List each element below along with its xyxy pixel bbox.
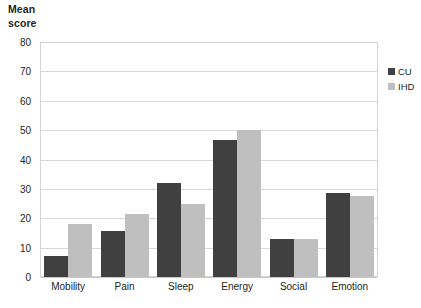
- bar-cu-social[interactable]: [270, 239, 294, 277]
- x-tick-label-social: Social: [280, 281, 307, 292]
- x-axis: MobilityPainSleepEnergySocialEmotion: [40, 281, 378, 303]
- chart-legend: CUIHD: [388, 64, 421, 94]
- x-tick-label-mobility: Mobility: [51, 281, 85, 292]
- y-tick-label-0: 0: [25, 272, 31, 283]
- bar-cu-pain[interactable]: [101, 231, 125, 277]
- bar-ihd-social[interactable]: [294, 239, 318, 277]
- bar-group-emotion: [326, 42, 374, 277]
- bar-ihd-sleep[interactable]: [181, 204, 205, 277]
- x-tick-label-energy: Energy: [221, 281, 253, 292]
- bar-group-pain: [101, 42, 149, 277]
- y-tick-label-50: 50: [20, 125, 31, 136]
- y-tick-label-10: 10: [20, 242, 31, 253]
- legend-label-ihd: IHD: [398, 81, 414, 92]
- bar-group-sleep: [157, 42, 205, 277]
- bar-cu-emotion[interactable]: [326, 193, 350, 277]
- bar-cu-sleep[interactable]: [157, 183, 181, 277]
- bar-ihd-pain[interactable]: [125, 214, 149, 277]
- bar-ihd-mobility[interactable]: [68, 224, 92, 277]
- bars-layer: [40, 42, 378, 277]
- legend-swatch-cu-icon: [388, 68, 395, 75]
- y-axis: 01020304050607080: [0, 42, 36, 277]
- y-tick-label-40: 40: [20, 154, 31, 165]
- legend-swatch-ihd-icon: [388, 83, 395, 90]
- y-tick-label-20: 20: [20, 213, 31, 224]
- x-tick-label-emotion: Emotion: [331, 281, 368, 292]
- x-tick-label-sleep: Sleep: [168, 281, 194, 292]
- gridline-0: [41, 277, 377, 278]
- bar-cu-mobility[interactable]: [44, 256, 68, 277]
- y-tick-label-30: 30: [20, 183, 31, 194]
- chart-title: Mean score: [8, 3, 37, 30]
- legend-label-cu: CU: [398, 66, 412, 77]
- y-tick-label-60: 60: [20, 95, 31, 106]
- legend-item-cu[interactable]: CU: [388, 64, 421, 79]
- legend-item-ihd[interactable]: IHD: [388, 79, 421, 94]
- bar-group-social: [270, 42, 318, 277]
- bar-group-mobility: [44, 42, 92, 277]
- y-tick-label-70: 70: [20, 66, 31, 77]
- y-tick-label-80: 80: [20, 37, 31, 48]
- bar-ihd-emotion[interactable]: [350, 196, 374, 277]
- bar-cu-energy[interactable]: [213, 140, 237, 277]
- bar-group-energy: [213, 42, 261, 277]
- x-tick-label-pain: Pain: [114, 281, 134, 292]
- bar-ihd-energy[interactable]: [237, 130, 261, 277]
